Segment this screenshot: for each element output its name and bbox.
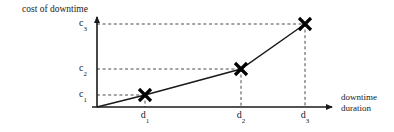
- x-tick-d2-base: d: [237, 109, 242, 120]
- x-tick-d2-subscript: 2: [242, 117, 246, 125]
- y-tick-c2-base: c: [79, 62, 83, 73]
- data-point-1: [139, 89, 151, 101]
- guide-lines-horizontal: [97, 24, 305, 95]
- data-point-2: [235, 63, 247, 75]
- x-tick-d3-base: d: [301, 109, 306, 120]
- y-tick-c1-base: c: [79, 88, 83, 99]
- data-point-markers: [139, 18, 311, 101]
- y-tick-label-c1: c1: [67, 89, 87, 102]
- y-tick-label-c3: c3: [67, 18, 87, 31]
- x-tick-label-d3: d3: [295, 110, 315, 123]
- x-tick-label-d2: d2: [231, 110, 251, 123]
- x-tick-label-d1: d1: [135, 110, 155, 123]
- y-tick-c3-base: c: [79, 17, 83, 28]
- x-axis-title: downtime duration: [341, 92, 377, 114]
- y-axis-title: cost of downtime: [22, 5, 88, 15]
- y-tick-c2-subscript: 2: [84, 70, 88, 78]
- y-tick-c3-subscript: 3: [84, 25, 88, 33]
- chart-figure: cost of downtime downtime duration c3 c2…: [0, 0, 394, 132]
- y-axis-title-text: cost of downtime: [22, 4, 88, 14]
- x-axis-title-line1: downtime: [341, 92, 377, 103]
- chart-plot-area: [0, 0, 394, 132]
- x-axis-title-line2: duration: [341, 103, 377, 114]
- x-tick-d1-subscript: 1: [146, 117, 150, 125]
- guide-lines-vertical: [145, 24, 305, 107]
- y-tick-label-c2: c2: [67, 63, 87, 76]
- cost-curve: [97, 24, 305, 107]
- x-tick-d3-subscript: 3: [306, 117, 310, 125]
- y-tick-c1-subscript: 1: [84, 96, 88, 104]
- x-tick-d1-base: d: [141, 109, 146, 120]
